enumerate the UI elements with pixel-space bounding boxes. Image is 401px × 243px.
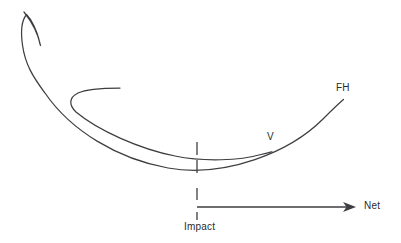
v-curve [71, 88, 272, 160]
fh-curve-label: FH [336, 82, 350, 93]
fh-curve [22, 12, 344, 170]
diagram-canvas [0, 0, 401, 243]
impact-marker-label: Impact [184, 221, 215, 232]
v-curve-label: V [267, 131, 274, 142]
net-axis-label: Net [364, 200, 380, 211]
diagram-figure: FH V Net Impact [0, 0, 401, 243]
